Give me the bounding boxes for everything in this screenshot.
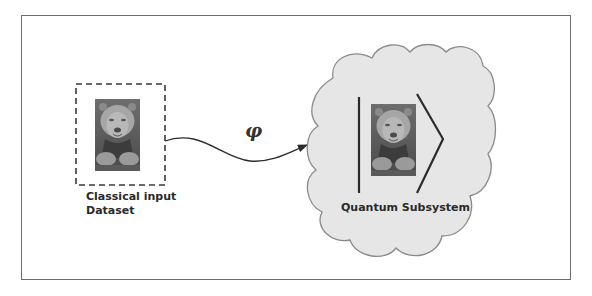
quantum-label: Quantum Subsystem <box>341 201 470 215</box>
mapping-arrow <box>165 138 307 161</box>
quantum-lion-image <box>371 104 416 176</box>
input-label-line1: Classical input <box>86 190 176 204</box>
diagram-canvas <box>0 0 592 296</box>
input-label-line2: Dataset <box>86 204 176 218</box>
phi-symbol: φ <box>245 119 262 141</box>
input-label: Classical input Dataset <box>86 190 176 218</box>
input-lion-image <box>95 99 140 171</box>
